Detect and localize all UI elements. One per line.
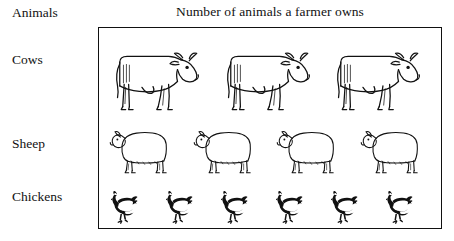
chicken-icon [331,190,358,226]
picto-unit-sheep [358,124,442,174]
category-axis: Animals Cows Sheep Chickens [0,0,98,241]
picto-unit-chickens [166,190,221,226]
picto-row-chickens [99,178,441,226]
picto-unit-chickens [276,190,331,226]
chicken-icon [386,190,413,226]
sheep-icon [191,124,257,174]
cow-icon [330,40,427,114]
sheep-icon [358,124,424,174]
picto-unit-chickens [386,190,441,226]
chart-title: Number of animals a farmer owns [98,4,442,20]
row-label-chickens: Chickens [12,189,62,205]
chicken-icon [166,190,193,226]
picto-unit-sheep [107,124,191,174]
picto-row-sheep [99,116,441,174]
row-label-cows: Cows [12,52,43,68]
picto-unit-cows [330,40,441,114]
plot-area [98,27,442,229]
picto-unit-chickens [221,190,276,226]
picto-unit-chickens [111,190,166,226]
picto-row-cows [99,32,441,114]
picto-unit-cows [220,40,331,114]
row-label-sheep: Sheep [12,136,45,152]
picto-unit-cows [109,40,220,114]
picto-unit-sheep [191,124,275,174]
chicken-icon [221,190,248,226]
picto-unit-chickens [331,190,386,226]
chicken-icon [276,190,303,226]
cow-icon [220,40,317,114]
sheep-icon [107,124,173,174]
cow-icon [109,40,206,114]
chicken-icon [111,190,138,226]
sheep-icon [274,124,340,174]
picto-unit-sheep [274,124,358,174]
axis-header-label: Animals [12,5,58,21]
